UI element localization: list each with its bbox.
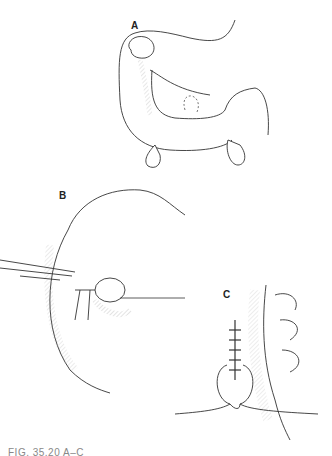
knot-thread (175, 404, 318, 414)
bowel-inner-a (150, 70, 268, 135)
hidden-outline (184, 96, 198, 112)
illustration (0, 0, 332, 456)
clamp (75, 290, 95, 320)
bowel-folds-c (275, 294, 299, 372)
panel-b-drawing (0, 190, 185, 393)
suture-line (229, 320, 241, 380)
diverticulum-right (227, 140, 245, 165)
panel-c-drawing (175, 285, 318, 440)
figure-caption: FIG. 35.20 A–C (8, 447, 84, 456)
panel-label-a: A (131, 20, 138, 31)
panel-label-c: C (223, 289, 230, 300)
panel-label-b: B (59, 190, 66, 201)
forceps (0, 260, 75, 280)
panel-a-drawing (119, 20, 268, 167)
diverticulum-top (129, 36, 154, 58)
